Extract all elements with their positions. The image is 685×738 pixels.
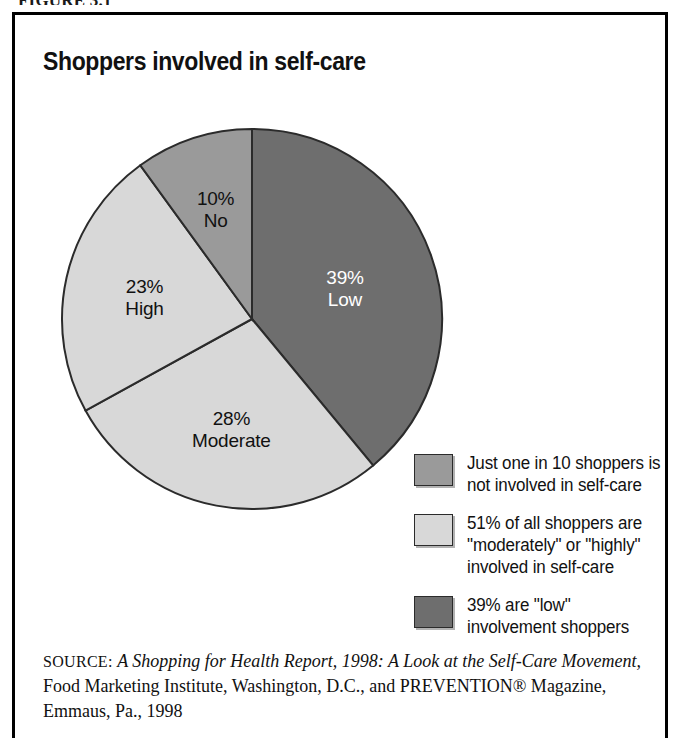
source-title-part-2: Movement, (561, 651, 640, 671)
pie-slice-label-low: 39%Low (326, 267, 364, 310)
legend-line: not involved in self-care (467, 474, 660, 496)
pie-chart-svg: 39%Low28%Moderate23%High10%No (60, 127, 444, 511)
pie-slice-label-high: 23%High (125, 276, 163, 319)
source-label: SOURCE: (43, 653, 113, 670)
legend-line: 39% are "low" (467, 594, 629, 616)
legend-line: involvement shoppers (467, 616, 629, 638)
legend-line: "moderately" or "highly" (467, 534, 642, 556)
legend-swatch-moderate-high (414, 514, 453, 546)
legend-line: 51% of all shoppers are (467, 512, 642, 534)
legend-item: Just one in 10 shoppers is not involved … (414, 452, 676, 496)
legend-line: Just one in 10 shoppers is (467, 452, 660, 474)
source-title-part-1: A Shopping for Health Report, 1998: A Lo… (117, 651, 557, 671)
figure-frame: Shoppers involved in self-care 39%Low28%… (12, 12, 668, 738)
legend-swatch-low-involvement (414, 596, 453, 628)
pie-chart: 39%Low28%Moderate23%High10%No (60, 127, 444, 511)
legend-swatch-no-involvement (414, 454, 453, 486)
legend: Just one in 10 shoppers is not involved … (414, 452, 676, 654)
legend-item-text: 39% are "low" involvement shoppers (467, 594, 629, 638)
legend-item-text: 51% of all shoppers are "moderately" or … (467, 512, 642, 578)
chart-title: Shoppers involved in self-care (43, 47, 366, 76)
legend-item-text: Just one in 10 shoppers is not involved … (467, 452, 660, 496)
legend-line: involved in self-care (467, 556, 642, 578)
legend-item: 39% are "low" involvement shoppers (414, 594, 676, 638)
figure-number-label: FIGURE 3.1 (18, 0, 112, 5)
source-note: SOURCE: A Shopping for Health Report, 19… (43, 649, 663, 724)
legend-item: 51% of all shoppers are "moderately" or … (414, 512, 676, 578)
source-rest-1: Food Marketing Institute, Washington, D.… (43, 676, 395, 696)
